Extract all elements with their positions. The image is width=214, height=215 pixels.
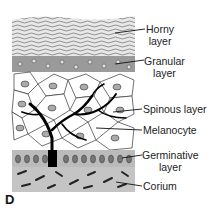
corium-layer [12, 167, 135, 192]
label-line: layer [144, 67, 185, 79]
panel-letter: D [5, 192, 14, 207]
label-line: Granular [144, 55, 185, 67]
label-line: Horny [146, 23, 174, 35]
germinative-layer [12, 150, 135, 167]
label-horny-layer: Horny layer [146, 23, 174, 47]
label-melanocyte: Melanocyte [143, 124, 197, 136]
label-line: layer [142, 161, 199, 173]
label-line: layer [146, 35, 174, 47]
spinous-layer [12, 72, 135, 150]
label-corium: Corium [143, 180, 177, 192]
label-spinous-layer: Spinous layer [143, 103, 207, 115]
label-germinative-layer: Germinative layer [142, 149, 199, 173]
horny-layer [12, 16, 135, 56]
label-granular-layer: Granular layer [144, 55, 185, 79]
label-line: Germinative [142, 149, 199, 161]
